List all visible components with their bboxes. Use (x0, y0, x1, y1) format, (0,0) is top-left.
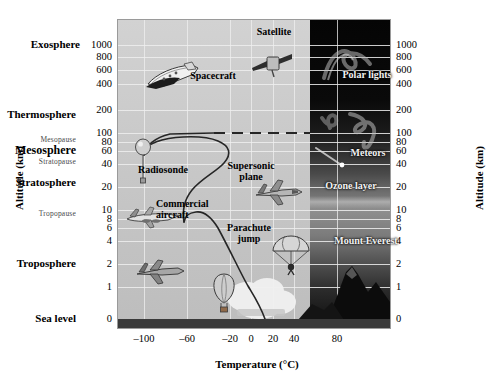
atmosphere-diagram: 1000 800 600 400 200 100 80 60 40 20 10 … (0, 0, 504, 384)
hot-air-balloon-icon (211, 272, 237, 314)
annotation-ozone-layer: Ozone layer (318, 180, 384, 191)
ytick-left-4: 4 (78, 236, 112, 246)
y-axis-title-left: Altitude (km) (13, 133, 25, 223)
ytick-left-200: 200 (78, 105, 112, 115)
ytick-left-60: 60 (78, 146, 112, 156)
annotation-spacecraft: Spacecraft (180, 70, 246, 81)
ytick-left-6: 6 (78, 223, 112, 233)
pause-label-stratopause: Stratopause (0, 157, 76, 166)
ytick-right-1: 1 (396, 282, 430, 292)
layer-label-troposphere: Troposphere (0, 257, 76, 269)
ytick-right-40: 40 (396, 159, 430, 169)
layer-label-thermosphere: Thermosphere (0, 108, 76, 120)
annotation-mount-everest: Mount Everest (326, 235, 406, 246)
ytick-right-800: 800 (396, 52, 430, 62)
ytick-left-40: 40 (78, 159, 112, 169)
annotation-supersonic-plane: Supersonic plane (222, 160, 280, 182)
layer-label-exosphere: Exosphere (0, 38, 80, 50)
xtick-minus60: –60 (167, 333, 207, 344)
ytick-right-0: 0 (396, 314, 430, 324)
ytick-left-600: 600 (78, 65, 112, 75)
satellite-icon (250, 48, 294, 78)
ytick-left-400: 400 (78, 79, 112, 89)
xtick-80: 80 (317, 333, 357, 344)
x-axis-title: Temperature (°C) (182, 358, 332, 370)
sea-level-label: Sea level (0, 312, 76, 324)
fighter-jet-icon (252, 178, 304, 208)
y-axis-title-right: Altitude (km) (473, 133, 485, 223)
ytick-right-400: 400 (396, 79, 430, 89)
annotation-radiosonde: Radiosonde (130, 164, 196, 175)
xtick-minus100: –100 (124, 333, 164, 344)
ytick-right-200: 200 (396, 105, 430, 115)
ytick-right-1000: 1000 (396, 40, 430, 50)
weather-balloon-icon (133, 138, 153, 186)
xtick-40: 40 (274, 333, 314, 344)
layer-label-stratosphere: Stratosphere (0, 176, 76, 188)
jet-icon (134, 258, 186, 286)
ytick-right-20: 20 (396, 182, 430, 192)
annotation-polar-lights: Polar lights (334, 69, 400, 80)
annotation-commercial-aircraft: Commercial aircraft (156, 198, 218, 220)
ytick-right-600: 600 (396, 65, 430, 75)
ytick-left-1000: 1000 (78, 40, 112, 50)
layer-label-mesosphere: Mesosphere (0, 143, 76, 158)
ytick-right-6: 6 (396, 223, 430, 233)
ytick-left-20: 20 (78, 182, 112, 192)
ytick-left-0: 0 (78, 314, 112, 324)
ytick-left-800: 800 (78, 52, 112, 62)
annotation-meteors: Meteors (342, 147, 394, 158)
ytick-right-2: 2 (396, 259, 430, 269)
ytick-right-60: 60 (396, 146, 430, 156)
pause-label-mesopause: Mesopause (0, 135, 76, 144)
annotation-parachute-jump: Parachute jump (220, 222, 278, 244)
annotation-satellite: Satellite (246, 26, 302, 37)
ytick-left-2: 2 (78, 259, 112, 269)
pause-label-tropopause: Tropopause (0, 209, 76, 218)
ytick-left-1: 1 (78, 282, 112, 292)
ground-strip (118, 319, 390, 328)
